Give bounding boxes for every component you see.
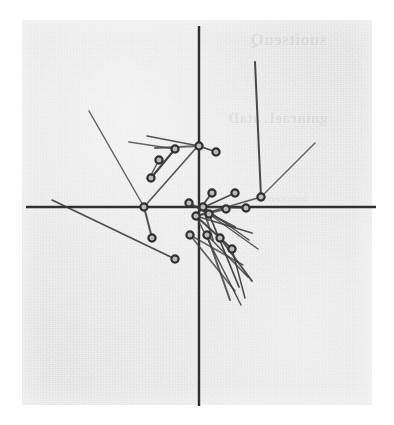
data-point-marker xyxy=(171,145,178,152)
data-point-marker xyxy=(212,148,219,155)
data-point-circle xyxy=(171,145,178,152)
data-point-circle xyxy=(199,203,206,210)
data-point-marker xyxy=(203,231,210,238)
data-point-markers-group xyxy=(140,142,264,262)
data-point-circle xyxy=(216,234,223,241)
scatter-plot-canvas xyxy=(0,0,394,425)
data-point-marker xyxy=(216,234,223,241)
plot-axes xyxy=(26,26,376,406)
data-point-circle xyxy=(195,142,202,149)
data-point-circle xyxy=(257,193,264,200)
data-point-marker xyxy=(185,199,192,206)
data-point-marker xyxy=(222,205,229,212)
data-point-marker xyxy=(186,231,193,238)
data-point-circle xyxy=(242,204,249,211)
data-point-marker xyxy=(171,255,178,262)
data-point-marker xyxy=(140,203,147,210)
data-point-marker xyxy=(228,245,235,252)
data-point-circle xyxy=(147,174,154,181)
data-point-circle xyxy=(148,234,155,241)
vector-segment xyxy=(144,207,152,238)
scanned-figure-page: suoitseuQ gninraeL ataD noisnemid xyxy=(0,0,394,425)
data-point-marker xyxy=(205,210,212,217)
vector-segment xyxy=(207,235,248,277)
data-point-circle xyxy=(192,212,199,219)
data-point-marker xyxy=(155,156,162,163)
data-point-circle xyxy=(185,199,192,206)
vector-segment xyxy=(261,143,315,197)
data-point-circle xyxy=(155,156,162,163)
data-point-circle xyxy=(228,245,235,252)
data-point-circle xyxy=(231,189,238,196)
data-point-circle xyxy=(212,148,219,155)
data-point-marker xyxy=(148,234,155,241)
vector-segment xyxy=(52,200,175,259)
data-point-marker xyxy=(199,203,206,210)
vector-segment xyxy=(147,136,199,146)
data-point-marker xyxy=(231,189,238,196)
data-point-circle xyxy=(222,205,229,212)
data-point-circle xyxy=(186,231,193,238)
data-point-circle xyxy=(203,231,210,238)
data-point-marker xyxy=(147,174,154,181)
data-point-circle xyxy=(205,210,212,217)
vector-segment xyxy=(255,62,261,197)
data-point-marker xyxy=(192,212,199,219)
data-point-circle xyxy=(140,203,147,210)
vector-segments-group xyxy=(52,62,315,305)
vector-segment xyxy=(89,111,144,207)
data-point-circle xyxy=(208,189,215,196)
data-point-circle xyxy=(171,255,178,262)
vector-segment xyxy=(151,149,175,178)
data-point-marker xyxy=(195,142,202,149)
data-point-marker xyxy=(257,193,264,200)
data-point-marker xyxy=(208,189,215,196)
data-point-marker xyxy=(242,204,249,211)
